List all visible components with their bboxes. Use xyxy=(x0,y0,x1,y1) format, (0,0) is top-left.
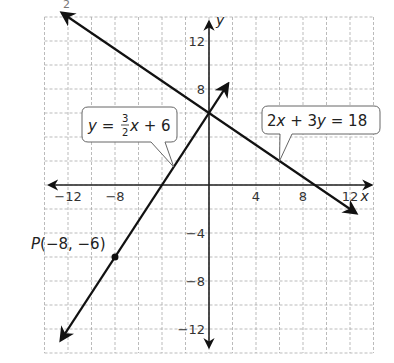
y-axis-label: y xyxy=(215,12,225,28)
annotation-line2: 2x + 3y = 18 xyxy=(267,112,367,130)
point-marker xyxy=(112,254,119,261)
annotation-line1-rest: x + 6 xyxy=(129,117,171,135)
x-tick-label: 4 xyxy=(252,189,260,204)
fraction-numerator: 3 xyxy=(122,113,128,124)
x-tick-label: −8 xyxy=(105,189,124,204)
y-tick-label: 12 xyxy=(188,34,205,49)
axes xyxy=(49,22,371,347)
callout-box-line1 xyxy=(82,107,177,167)
y-tick-label: −4 xyxy=(186,226,205,241)
callouts: y = 3 2 x + 6 2x + 3y = 18 xyxy=(82,106,380,167)
y-tick-label: −12 xyxy=(178,322,205,337)
x-tick-label: 12 xyxy=(342,189,359,204)
chart: 2 −12−84812128−4−8−12 y = 3 2 x + 6 2x +… xyxy=(0,0,394,363)
x-axis-label: x xyxy=(360,188,370,204)
y-tick-label: −8 xyxy=(186,274,205,289)
point-label: P(−8, −6) xyxy=(31,235,106,253)
x-tick-label: −12 xyxy=(54,189,81,204)
annotation-line1: y = xyxy=(87,117,114,135)
stray-text: 2 xyxy=(63,0,70,11)
fraction-denominator: 2 xyxy=(122,127,128,138)
y-tick-label: 8 xyxy=(197,82,205,97)
points xyxy=(112,254,119,261)
x-tick-label: 8 xyxy=(299,189,307,204)
